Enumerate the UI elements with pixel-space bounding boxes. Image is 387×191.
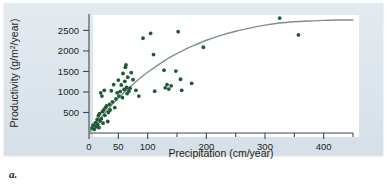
- data-point: [111, 100, 115, 104]
- data-point: [128, 86, 132, 90]
- data-point: [129, 71, 133, 75]
- figure-caption: a.: [9, 168, 17, 180]
- data-point: [141, 36, 145, 40]
- y-axis-title: Productivity (g/m2/year): [8, 19, 20, 128]
- figure-panel: 5001000150020002500 050100200300400 Prec…: [0, 0, 387, 191]
- x-tick-label: 0: [86, 141, 91, 152]
- data-point: [123, 79, 127, 83]
- data-point: [101, 121, 105, 125]
- data-point: [126, 75, 130, 79]
- data-point: [165, 83, 169, 87]
- data-point: [97, 126, 101, 130]
- data-point: [106, 120, 110, 124]
- data-point: [108, 102, 112, 106]
- data-point: [113, 106, 117, 110]
- data-point: [153, 89, 157, 93]
- scatter-chart: 5001000150020002500 050100200300400 Prec…: [0, 0, 387, 191]
- data-point: [121, 96, 125, 100]
- data-point: [100, 94, 104, 98]
- data-point: [96, 122, 100, 126]
- data-point: [137, 94, 141, 98]
- y-axis-ticks: [83, 30, 89, 112]
- data-point: [121, 72, 125, 76]
- data-point: [169, 84, 173, 88]
- data-point: [99, 91, 103, 95]
- data-point: [152, 53, 156, 57]
- y-tick-label: 1500: [58, 66, 79, 77]
- x-tick-label: 50: [113, 141, 124, 152]
- data-point: [112, 83, 116, 87]
- data-point: [278, 16, 282, 20]
- y-tick-label: 1000: [58, 86, 79, 97]
- data-point: [174, 69, 178, 73]
- x-tick-label: 400: [316, 141, 332, 152]
- x-tick-label: 100: [140, 141, 156, 152]
- data-point: [180, 88, 184, 92]
- y-tick-label: 500: [63, 107, 79, 118]
- data-point: [119, 83, 123, 87]
- data-point: [162, 68, 166, 72]
- x-axis-title: Precipitation (cm/year): [168, 147, 273, 159]
- data-point: [124, 63, 128, 67]
- data-point: [297, 33, 301, 37]
- axes: [83, 14, 353, 139]
- y-tick-label: 2500: [58, 25, 79, 36]
- data-point: [99, 117, 103, 121]
- data-point: [103, 113, 107, 117]
- y-axis-tick-labels: 5001000150020002500: [58, 25, 79, 118]
- data-point: [179, 77, 183, 81]
- data-point: [125, 86, 129, 90]
- data-point: [190, 81, 194, 85]
- data-point: [202, 45, 206, 49]
- data-point: [167, 87, 171, 91]
- data-point: [109, 89, 113, 93]
- data-point: [163, 86, 167, 90]
- data-points: [90, 16, 300, 131]
- x-axis-ticks: [89, 133, 353, 139]
- data-point: [108, 108, 112, 112]
- y-tick-label: 2000: [58, 45, 79, 56]
- data-point: [116, 78, 120, 82]
- data-point: [117, 94, 121, 98]
- data-point: [176, 30, 180, 34]
- data-point: [134, 88, 138, 92]
- data-point: [149, 31, 153, 35]
- data-point: [131, 78, 135, 82]
- data-point: [102, 88, 106, 92]
- data-point: [114, 97, 118, 101]
- data-point: [118, 90, 122, 94]
